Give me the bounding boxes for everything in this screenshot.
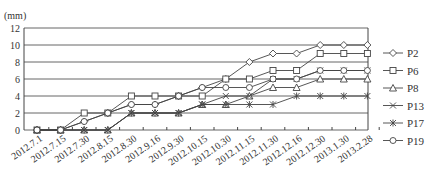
square-marker [317, 51, 323, 57]
series-lines [34, 42, 371, 134]
square-marker [364, 51, 370, 57]
diamond-marker [364, 42, 371, 49]
diamond-marker [317, 42, 324, 49]
legend-label: P17 [407, 117, 425, 129]
legend-label: P8 [407, 82, 419, 94]
diamond-marker [293, 50, 300, 57]
legend-item-p2: P2 [383, 47, 419, 59]
y-tick-label: 10 [10, 40, 20, 51]
legend-item-p19: P19 [383, 135, 425, 147]
legend-label: P19 [407, 135, 425, 147]
legend-item-p8: P8 [383, 82, 419, 94]
square-marker [294, 68, 300, 74]
y-tick-label: 2 [15, 108, 20, 119]
y-tick-label: 6 [15, 74, 20, 85]
y-tick-label: 0 [15, 125, 20, 136]
line-chart: (mm) 024681012 2012.7.12012.7.152012.7.3… [0, 0, 437, 183]
gridlines [24, 28, 368, 130]
square-marker [270, 68, 276, 74]
y-unit-label: (mm) [4, 10, 26, 22]
legend-label: P2 [407, 47, 419, 59]
legend-label: P6 [407, 65, 419, 77]
circle-marker [317, 68, 323, 74]
circle-marker [390, 138, 396, 144]
circle-marker [270, 76, 276, 82]
circle-marker [341, 68, 347, 74]
legend-item-p6: P6 [383, 65, 419, 77]
circle-marker [223, 85, 229, 91]
square-marker [223, 76, 229, 82]
diamond-marker [390, 50, 397, 57]
y-axis-ticks: 024681012 [10, 23, 20, 136]
circle-marker [246, 85, 252, 91]
square-marker [81, 110, 87, 116]
legend: P2P6P8P13P17P19 [383, 47, 425, 147]
y-tick-label: 4 [15, 91, 20, 102]
square-marker [341, 51, 347, 57]
legend-item-p17: P17 [383, 117, 425, 129]
square-marker [199, 93, 205, 99]
circle-marker [34, 127, 40, 133]
diamond-marker [246, 59, 253, 66]
y-tick-label: 12 [10, 23, 20, 34]
diamond-marker [270, 50, 277, 57]
legend-label: P13 [407, 100, 425, 112]
circle-marker [81, 119, 87, 125]
square-marker [390, 68, 396, 74]
circle-marker [152, 102, 158, 108]
circle-marker [199, 85, 205, 91]
x-axis-ticks: 2012.7.12012.7.152012.7.302012.8.152012.… [9, 127, 379, 167]
circle-marker [128, 102, 134, 108]
y-tick-label: 8 [15, 57, 20, 68]
circle-marker [58, 127, 64, 133]
square-marker [128, 93, 134, 99]
circle-marker [176, 93, 182, 99]
square-marker [152, 93, 158, 99]
circle-marker [294, 76, 300, 82]
circle-marker [105, 110, 111, 116]
legend-item-p13: P13 [383, 100, 425, 112]
diamond-marker [340, 42, 347, 49]
circle-marker [364, 68, 370, 74]
square-marker [246, 76, 252, 82]
